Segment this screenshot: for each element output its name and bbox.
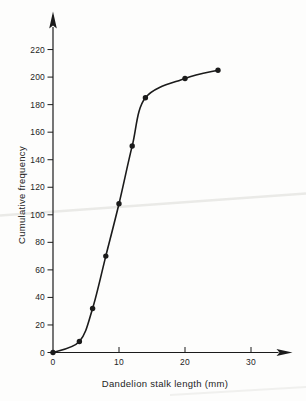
y-tick-label: 120	[30, 182, 45, 192]
data-point	[90, 306, 95, 311]
y-axis-arrowhead-icon	[49, 12, 57, 29]
data-point	[50, 350, 55, 355]
y-tick-label: 80	[35, 237, 45, 247]
y-tick-label: 20	[35, 320, 45, 330]
ogive-curve	[53, 70, 218, 352]
y-tick-label: 60	[35, 265, 45, 275]
x-axis-arrowhead-icon	[277, 349, 293, 356]
y-tick-label: 0	[40, 348, 45, 358]
data-point	[143, 95, 148, 100]
data-point	[215, 68, 220, 73]
data-point	[116, 201, 121, 206]
x-tick-label: 20	[180, 357, 190, 367]
x-tick-label: 30	[246, 357, 256, 367]
x-tick-label: 10	[114, 357, 124, 367]
y-tick-label: 200	[30, 72, 45, 82]
cumulative-frequency-chart: 0204060801001201401601802002200102030	[0, 0, 306, 401]
y-tick-label: 160	[30, 127, 45, 137]
scanned-chart-page: 0204060801001201401601802002200102030 Cu…	[0, 0, 306, 401]
data-point	[77, 339, 82, 344]
y-tick-label: 100	[30, 210, 45, 220]
data-point	[130, 143, 135, 148]
y-tick-label: 180	[30, 100, 45, 110]
x-tick-label: 0	[51, 357, 56, 367]
y-tick-label: 40	[35, 292, 45, 302]
data-point	[182, 76, 187, 81]
scan-artifact-line	[0, 194, 306, 216]
x-axis-title: Dandelion stalk length (mm)	[102, 378, 228, 389]
y-tick-label: 140	[30, 155, 45, 165]
y-axis-title: Cumulative frequency	[16, 146, 27, 244]
y-tick-label: 220	[30, 45, 45, 55]
data-point	[103, 253, 108, 258]
